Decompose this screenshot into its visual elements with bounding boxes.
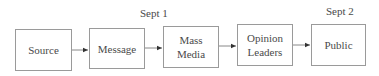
annotation-sept-1: Sept 1	[140, 7, 168, 19]
node-public-label: Public	[324, 38, 352, 52]
node-source-label: Source	[28, 43, 59, 57]
node-mass-media: Mass Media	[163, 26, 219, 68]
node-message-label: Message	[98, 42, 137, 56]
node-opinion-leaders-label-line2: Leaders	[247, 45, 283, 59]
node-mass-media-label-line1: Mass	[177, 33, 205, 47]
node-message: Message	[89, 28, 145, 69]
node-public: Public	[311, 24, 366, 66]
node-opinion-leaders-label-line1: Opinion	[247, 31, 283, 45]
node-mass-media-label-line2: Media	[177, 47, 205, 61]
annotation-sept-2: Sept 2	[326, 5, 354, 17]
node-source: Source	[15, 29, 72, 71]
node-opinion-leaders: Opinion Leaders	[237, 24, 293, 66]
